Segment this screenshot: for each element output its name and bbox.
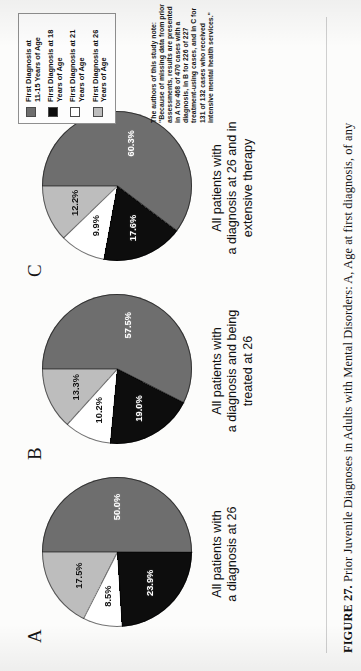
figure-caption: FIGURE 27. Prior Juvenile Diagnoses in A… [341,17,356,653]
pie-slice-label: 10.2% [94,397,104,423]
pie-slice-divider [110,369,118,444]
legend-label-3: First Diagnosis at 21 Years of Age [69,28,86,102]
pie-slice-label: 17.5% [74,562,84,588]
pie-slice-label: 17.6% [128,215,138,241]
pie-slice-divider [117,186,177,232]
caption-rule [326,17,327,653]
pie-slice-divider [43,552,118,553]
pie-slice-divider [43,186,118,187]
pie-slice-label: 9.9% [91,215,101,236]
pie-b-slices: 57.5%19.0%10.2%13.3% [42,294,192,444]
panel-c-sublabel-text: All patients witha diagnosis at 26 and i… [210,121,255,254]
pie-slice-divider [43,369,118,370]
legend-item-3: First Diagnosis at 21 Years of Age [69,21,86,117]
panel-a-letter: A [24,629,46,643]
pie-slice-label: 8.5% [103,585,113,606]
legend-swatch-18 [48,107,58,117]
panel-c-letter: C [24,264,46,277]
pie-slice-divider [117,552,123,627]
figure-note: The authors of this study note: "Because… [150,3,215,123]
pie-slice-label: 12.2% [70,190,80,216]
legend: First Diagnosis at 11-15 Years of AgeFir… [18,13,116,124]
legend-item-4: First Diagnosis at 26 Years of Age [92,21,109,117]
pie-slice-label: 23.9% [145,570,155,596]
figure-page: A 50.0%23.9%8.5%17.5% All patients witha… [0,0,361,671]
panel-a-sublabel-text: All patients witha diagnosis at 26 [210,506,239,601]
panel-c-sublabel: All patients witha diagnosis at 26 and i… [210,93,256,283]
legend-label-2: First Diagnosis at 18 Years of Age [47,28,64,102]
legend-swatch-21 [70,107,80,117]
figure-number: FIGURE 27. [341,585,355,653]
figure-caption-text: Prior Juvenile Diagnoses in Adults with … [341,123,355,582]
legend-swatch-11-15 [26,107,36,117]
panel-a: A 50.0%23.9%8.5%17.5% All patients witha… [22,459,272,649]
pie-slice-divider [117,369,184,404]
pie-chart-a: 50.0%23.9%8.5%17.5% [42,475,194,627]
pie-chart-c: 60.3%17.6%9.9%12.2% [42,109,194,261]
panel-b-sublabel-text: All patients witha diagnosis and beingtr… [210,310,255,433]
legend-swatch-26 [93,107,103,117]
pie-slice-label: 57.5% [123,312,133,338]
panel-b-sublabel: All patients witha diagnosis and beingtr… [210,276,256,466]
legend-label-1: First Diagnosis at 11-15 Years of Age [25,28,42,102]
panel-b-letter: B [24,447,46,460]
pie-slice-label: 13.3% [71,374,81,400]
pie-slice-label: 60.3% [126,130,136,156]
legend-label-4: First Diagnosis at 26 Years of Age [92,28,109,102]
panel-b: B 57.5%19.0%10.2%13.3% All patients with… [22,276,272,466]
scanned-page-rotator: A 50.0%23.9%8.5%17.5% All patients witha… [0,0,361,671]
legend-item-1: First Diagnosis at 11-15 Years of Age [25,21,42,117]
pie-slice-label: 19.0% [134,395,144,421]
pie-a-slices: 50.0%23.9%8.5%17.5% [42,477,192,627]
pie-c-slices: 60.3%17.6%9.9%12.2% [42,111,192,261]
pie-chart-b: 57.5%19.0%10.2%13.3% [42,292,194,444]
panel-a-sublabel: All patients witha diagnosis at 26 [210,459,241,649]
pie-slice-divider [117,552,192,553]
pie-slice-label: 50.0% [112,494,122,520]
legend-item-2: First Diagnosis at 18 Years of Age [47,21,64,117]
